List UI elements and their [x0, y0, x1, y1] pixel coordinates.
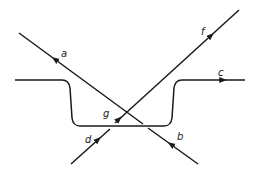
- line-b: [148, 128, 198, 164]
- diagram-canvas: a b c d f g: [0, 0, 257, 176]
- label-b: b: [177, 131, 183, 142]
- label-a: a: [61, 48, 67, 59]
- label-d: d: [85, 134, 92, 145]
- label-c: c: [218, 67, 224, 78]
- label-f: f: [201, 26, 206, 37]
- label-g: g: [103, 108, 109, 119]
- line-a: [19, 33, 143, 124]
- path-c: [15, 80, 245, 126]
